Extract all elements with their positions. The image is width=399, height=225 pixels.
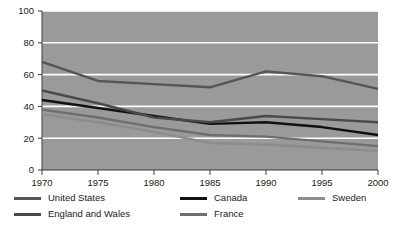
x-tick-label-2000: 2000 <box>367 177 388 188</box>
legend-item-sweden[interactable]: Sweden <box>298 190 366 206</box>
x-tick-label-1975: 1975 <box>87 177 108 188</box>
x-tick-label-1990: 1990 <box>255 177 276 188</box>
x-tick-label-1995: 1995 <box>311 177 332 188</box>
line-swatch <box>180 197 207 200</box>
line-swatch <box>14 213 41 216</box>
x-tick-label-1980: 1980 <box>143 177 164 188</box>
x-tick-label-1985: 1985 <box>199 177 220 188</box>
line-swatch <box>180 213 207 216</box>
legend-row: England and WalesFrance <box>14 206 389 222</box>
chart-legend: United StatesCanadaSwedenEngland and Wal… <box>14 190 389 224</box>
legend-item-france[interactable]: France <box>180 206 298 222</box>
legend-label: United States <box>48 190 105 206</box>
legend-row: United StatesCanadaSweden <box>14 190 389 206</box>
legend-label: Canada <box>214 190 247 206</box>
legend-item-england-and-wales[interactable]: England and Wales <box>14 206 180 222</box>
legend-label: Sweden <box>332 190 366 206</box>
y-tick-label-20: 20 <box>23 133 34 144</box>
y-tick-label-60: 60 <box>23 69 34 80</box>
y-tick-label-40: 40 <box>23 101 34 112</box>
line-swatch <box>298 197 325 200</box>
legend-label: England and Wales <box>48 206 130 222</box>
x-tick-label-1970: 1970 <box>31 177 52 188</box>
y-tick-label-100: 100 <box>18 5 34 16</box>
y-tick-label-0: 0 <box>29 164 34 175</box>
line-swatch <box>14 197 41 200</box>
legend-label: France <box>214 206 244 222</box>
plot-background <box>42 11 378 170</box>
legend-item-canada[interactable]: Canada <box>180 190 298 206</box>
legend-item-united-states[interactable]: United States <box>14 190 180 206</box>
line-chart: 0204060801001970197519801985199019952000… <box>0 0 399 225</box>
y-tick-label-80: 80 <box>23 37 34 48</box>
